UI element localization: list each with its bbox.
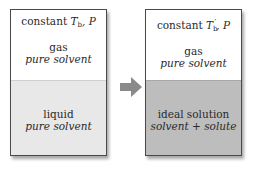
- gas-phase-region: constant Tb′, P gas pure solvent: [146, 10, 241, 80]
- temperature-symbol: T: [206, 19, 213, 31]
- temperature-letter: T: [206, 19, 213, 31]
- condition-label: constant Tb, P: [11, 15, 106, 32]
- pressure-text: , P: [216, 19, 230, 31]
- gas-composition-label: pure solvent: [146, 57, 241, 69]
- condition-prefix: constant: [21, 15, 70, 27]
- condition-label: constant Tb′, P: [146, 15, 241, 36]
- gas-phase-label: gas: [11, 41, 106, 53]
- gas-composition-label: pure solvent: [11, 53, 106, 65]
- pressure-label: , P: [82, 15, 96, 27]
- liquid-phase-label: liquid: [11, 108, 106, 120]
- gas-phase-label: gas: [146, 45, 241, 57]
- condition-prefix: constant: [157, 19, 206, 31]
- pressure-text: , P: [82, 15, 96, 27]
- pressure-label: , P: [216, 19, 230, 31]
- solution-phase-region: ideal solution solvent + solute: [146, 80, 241, 155]
- gas-phase-region: constant Tb, P gas pure solvent: [11, 10, 106, 80]
- liquid-composition-label: pure solvent: [11, 120, 106, 132]
- solution-composition-label: solvent + solute: [146, 120, 241, 132]
- solution-system: constant Tb′, P gas pure solvent ideal s…: [145, 9, 242, 156]
- liquid-phase-region: liquid pure solvent: [11, 80, 106, 155]
- pure-solvent-system: constant Tb, P gas pure solvent liquid p…: [10, 9, 107, 156]
- right-arrow-icon: [120, 77, 142, 97]
- solution-phase-label: ideal solution: [146, 108, 241, 120]
